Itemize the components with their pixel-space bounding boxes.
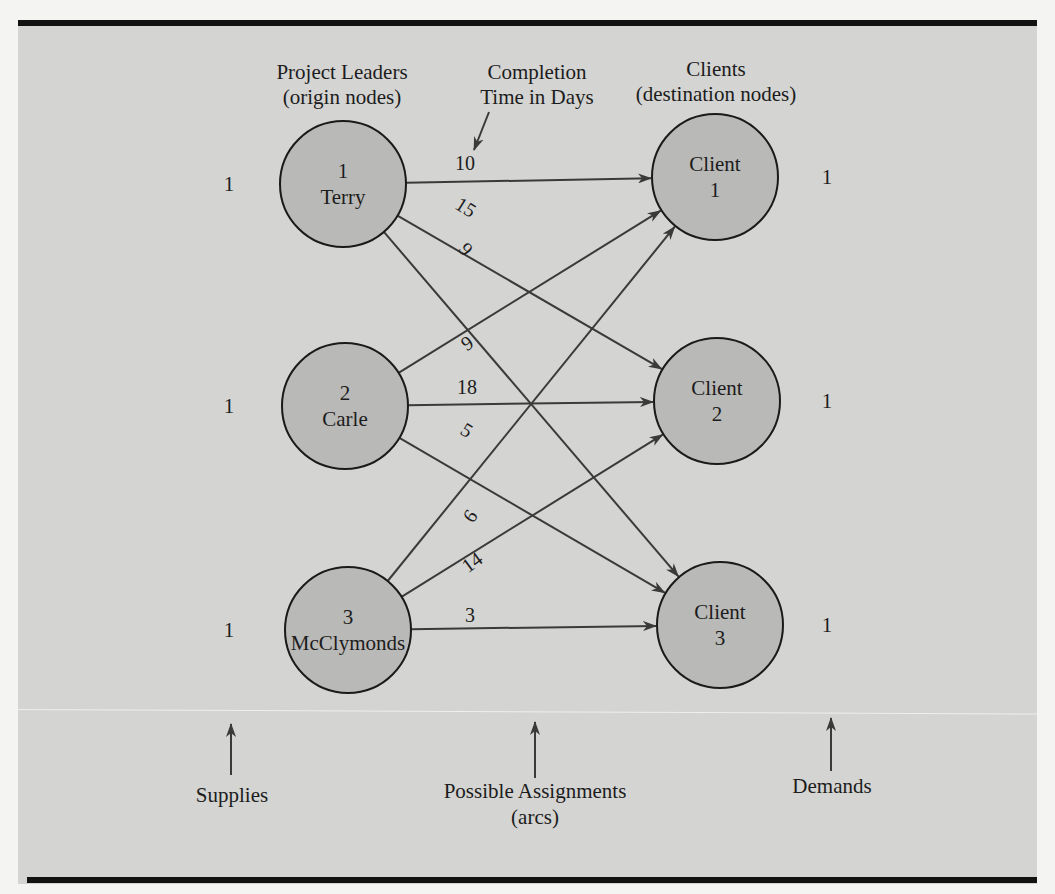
destination-node-number: 3 [715, 626, 726, 650]
demand-value: 1 [822, 613, 833, 637]
arc-3-1 [388, 227, 675, 581]
origins-header-line2: (origin nodes) [283, 85, 401, 109]
destination-node-circle [657, 562, 783, 688]
origin-node-circle [285, 567, 411, 693]
origin-node-circle [282, 343, 408, 469]
arc-cost-label: 14 [457, 547, 486, 577]
supplies-label: Supplies [196, 783, 268, 807]
origin-node-name: Carle [322, 407, 367, 431]
arcs-layer: 1015991856143 [384, 152, 679, 629]
destination-node-number: 2 [712, 402, 723, 426]
destination-node-circle [652, 114, 778, 240]
supply-value: 1 [224, 394, 235, 418]
origin-node-3: 3McClymonds1 [224, 567, 411, 693]
destination-node-label: Client [691, 376, 742, 400]
arc-3-3 [411, 626, 656, 629]
arc-cost-label: 9 [457, 331, 478, 355]
demand-value: 1 [822, 389, 833, 413]
arc-cost-label: 10 [455, 152, 475, 174]
origin-node-number: 1 [338, 159, 349, 183]
arc-cost-label: 6 [458, 506, 482, 527]
arc-cost-label: 3 [465, 604, 475, 626]
assignments-label-line2: (arcs) [511, 805, 559, 829]
origin-node-name: McClymonds [291, 631, 405, 655]
arc-cost-label: 5 [457, 418, 477, 442]
supply-value: 1 [224, 618, 235, 642]
cost-header-line1: Completion [487, 60, 587, 84]
origin-node-circle [280, 121, 406, 247]
demands-label: Demands [792, 774, 871, 798]
cost-header-line2: Time in Days [480, 85, 594, 109]
arc-cost-label: 9 [454, 238, 477, 260]
destination-node-2: Client21 [654, 338, 832, 464]
cost-pointer-arrow-icon [474, 112, 489, 150]
destination-node-number: 1 [710, 178, 721, 202]
destination-node-1: Client11 [652, 114, 832, 240]
origin-node-1: 1Terry1 [224, 121, 406, 247]
origins-header-line1: Project Leaders [276, 60, 407, 84]
destination-node-label: Client [689, 152, 740, 176]
arc-cost-label: 18 [457, 376, 477, 398]
origin-node-number: 2 [340, 381, 351, 405]
destination-node-3: Client31 [657, 562, 832, 688]
destinations-header-line2: (destination nodes) [636, 82, 796, 106]
demand-value: 1 [822, 165, 833, 189]
origin-node-2: 2Carle1 [224, 343, 408, 469]
destination-node-label: Client [694, 600, 745, 624]
arc-1-1 [406, 178, 651, 183]
arc-cost-label: 15 [452, 192, 481, 221]
destinations-header-line1: Clients [686, 57, 746, 81]
assignments-label-line1: Possible Assignments [444, 779, 627, 803]
origin-node-number: 3 [343, 605, 354, 629]
origin-node-name: Terry [320, 185, 366, 209]
supply-value: 1 [224, 172, 235, 196]
destination-node-circle [654, 338, 780, 464]
network-diagram: Project Leaders (origin nodes) Completio… [0, 0, 1055, 894]
